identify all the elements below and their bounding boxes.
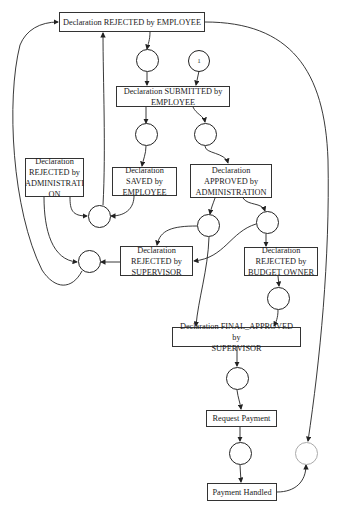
place-after-request-payment [229,442,252,465]
transition-request-payment: Request Payment [206,410,277,427]
place-after-approved-right [256,211,279,234]
place-after-rejected-by-employee [136,49,159,72]
place-start: 1 [188,50,210,72]
place-rework-upper [88,205,111,228]
place-after-budget-rejection [267,287,290,310]
transition-payment-handled: Payment Handled [207,483,277,501]
transition-rejected-by-supervisor: Declaration REJECTED by SUPERVISOR [120,246,193,276]
transition-submitted-by-employee: Declaration SUBMITTED by EMPLOYEE [116,86,230,107]
place-after-submitted-left [135,123,158,146]
place-after-final-approval [226,367,249,390]
place-after-approved-left [197,214,220,237]
transition-rejected-by-employee: Declaration REJECTED by EMPLOYEE [59,12,205,32]
transition-rejected-by-budget-owner: Declaration REJECTED by BUDGET OWNER [244,247,318,276]
transition-approved-by-administration: Declaration APPROVED by ADMINISTRATION [190,164,272,198]
place-end [295,442,318,465]
place-rework-lower [78,250,101,273]
transition-rejected-by-administration: Declaration REJECTED by ADMINISTRATI ON [25,158,84,197]
transition-saved-by-employee: Declaration SAVED by EMPLOYEE [112,167,177,196]
place-after-submitted-right [194,123,217,146]
transition-final-approved-by-supervisor: Declaration FINAL_APPROVED by SUPERVISOR [172,327,301,347]
